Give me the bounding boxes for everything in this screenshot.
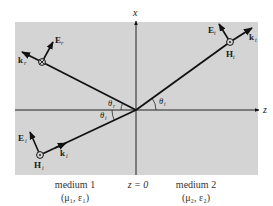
wave-incidence-diagram: x z E i H i k i E r k r — [0, 0, 273, 206]
incident-H-label: H — [34, 160, 41, 170]
theta-t-label: θ — [159, 96, 163, 106]
medium-1-name: medium 1 — [55, 179, 95, 190]
z-axis-label: z — [262, 104, 267, 115]
x-axis-label: x — [132, 7, 138, 18]
incident-E-label: E — [18, 133, 24, 143]
medium-1-params: (μ₁, ε₁) — [61, 192, 89, 203]
theta-r-label: θ — [108, 98, 112, 108]
incident-k-label: k — [60, 148, 65, 158]
incident-H-dot-icon — [37, 152, 44, 159]
theta-i-label: θ — [100, 110, 104, 120]
interface-label: z = 0 — [128, 179, 149, 190]
diagram-canvas: x z E i H i k i E r k r — [0, 0, 273, 206]
medium-2-name: medium 2 — [176, 179, 216, 190]
transmitted-H-dot-icon — [227, 39, 234, 46]
reflected-H-cross-icon — [39, 59, 46, 66]
medium-2-params: (μ₂, ε₂) — [182, 192, 210, 203]
transmitted-H-label: H — [226, 49, 233, 59]
transmitted-k-label: k — [249, 32, 254, 42]
reflected-k-label: k — [18, 55, 23, 65]
